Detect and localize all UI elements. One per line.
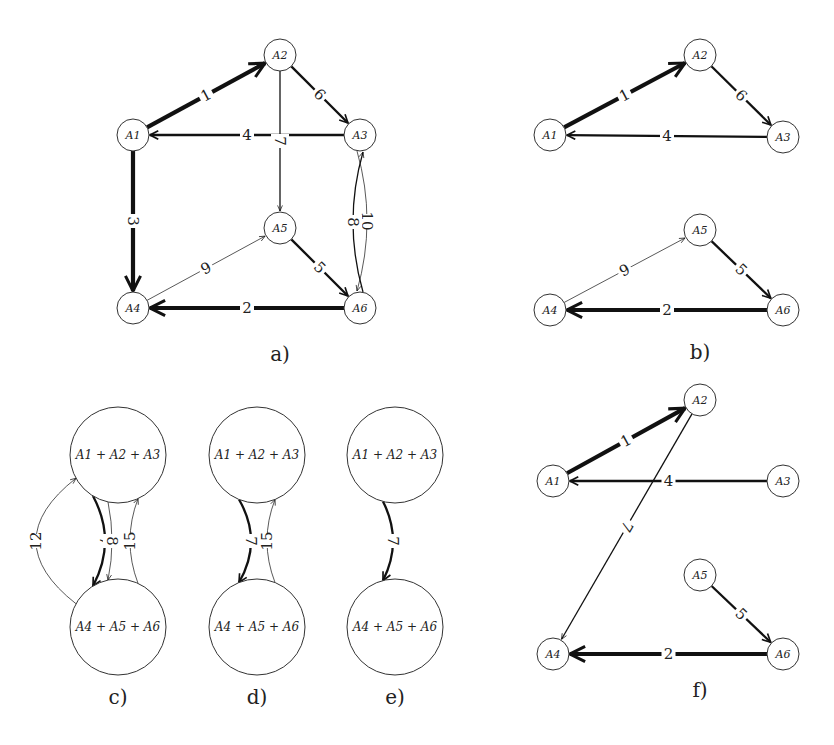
panel-label-c: c) xyxy=(108,685,127,709)
node-label: A4 + A5 + A6 xyxy=(75,620,161,634)
node-label: A1 + A2 + A3 xyxy=(214,448,300,462)
node-label: A6 xyxy=(775,648,791,661)
panel-label-d: d) xyxy=(247,685,268,709)
node-label: A1 + A2 + A3 xyxy=(75,448,161,462)
node-label: A5 xyxy=(272,222,288,235)
node-label: A1 xyxy=(542,129,558,142)
edge-weight-label: 12 xyxy=(27,531,45,550)
panel-label-f: f) xyxy=(692,678,707,702)
node-label: A3 xyxy=(775,131,791,144)
node-label: A4 xyxy=(545,648,561,661)
node-a6: A6 xyxy=(344,292,376,324)
node-a6: A6 xyxy=(767,294,799,326)
node-label: A5 xyxy=(692,224,708,237)
node-a4: A4 xyxy=(537,638,569,670)
edge-weight-label: 2 xyxy=(664,645,674,663)
node-a1: A1 xyxy=(537,465,569,497)
edge-weight-label: 4 xyxy=(664,472,674,490)
node-a2: A2 xyxy=(684,384,716,416)
node-label: A1 xyxy=(545,475,561,488)
node-a5: A5 xyxy=(684,214,716,246)
node-label: A2 xyxy=(272,49,288,62)
panel-a xyxy=(133,63,367,308)
edge-weight-label: 15 xyxy=(258,531,276,550)
panel-label-a: a) xyxy=(270,342,290,366)
node-label: A4 xyxy=(125,302,141,315)
edge-weight-label: 4 xyxy=(242,126,252,144)
node-label: A4 + A5 + A6 xyxy=(352,620,438,634)
node-label: A3 xyxy=(775,475,791,488)
node-label: A1 xyxy=(125,129,141,142)
node-label: A6 xyxy=(352,302,368,315)
node-a1: A1 xyxy=(117,119,149,151)
panel-label-b: b) xyxy=(690,340,711,364)
node-a2: A2 xyxy=(684,39,716,71)
node-a3: A3 xyxy=(767,465,799,497)
edge-weight-label: 8 xyxy=(344,217,362,227)
node-a5: A5 xyxy=(264,212,296,244)
edge-weight-label: 15 xyxy=(121,531,139,550)
node-label: A2 xyxy=(692,49,708,62)
node-b: A4 + A5 + A6 xyxy=(347,579,443,675)
node-a4: A4 xyxy=(534,294,566,326)
node-a3: A3 xyxy=(344,119,376,151)
edge-weight-label: 3 xyxy=(124,216,142,226)
edge-weight-label: 4 xyxy=(662,127,672,145)
node-label: A2 xyxy=(692,394,708,407)
node-label: A4 xyxy=(542,304,558,317)
node-t: A1 + A2 + A3 xyxy=(347,407,443,503)
node-label: A6 xyxy=(775,304,791,317)
edge-weight-label: 2 xyxy=(242,299,252,317)
node-b: A4 + A5 + A6 xyxy=(70,579,166,675)
graph-figure: A1A2A3A4A5A6A1A2A3A4A5A6A1 + A2 + A3A4 +… xyxy=(0,0,834,745)
node-label: A5 xyxy=(692,569,708,582)
node-a5: A5 xyxy=(684,559,716,591)
edge-weight-label: 7 xyxy=(271,136,289,146)
node-b: A4 + A5 + A6 xyxy=(209,579,305,675)
node-a4: A4 xyxy=(117,292,149,324)
panel-label-e: e) xyxy=(385,685,405,709)
node-a1: A1 xyxy=(534,119,566,151)
edge-weight-label: 2 xyxy=(662,301,672,319)
node-t: A1 + A2 + A3 xyxy=(209,407,305,503)
node-a3: A3 xyxy=(767,121,799,153)
node-a6: A6 xyxy=(767,638,799,670)
edge-weight-label: 8 xyxy=(103,536,121,546)
node-a2: A2 xyxy=(264,39,296,71)
edge-weight-label: 7 xyxy=(384,536,402,546)
node-label: A3 xyxy=(352,129,368,142)
node-t: A1 + A2 + A3 xyxy=(70,407,166,503)
node-label: A1 + A2 + A3 xyxy=(352,448,438,462)
node-label: A4 + A5 + A6 xyxy=(214,620,300,634)
